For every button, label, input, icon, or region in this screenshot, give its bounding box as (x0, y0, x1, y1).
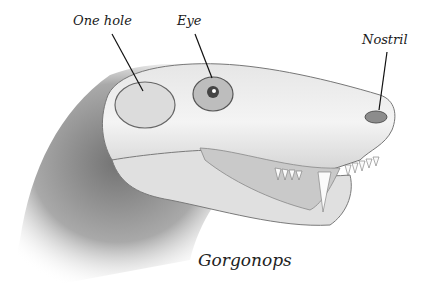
label-eye: Eye (177, 13, 202, 28)
label-one-hole: One hole (73, 13, 132, 28)
gorgonops-skull-diagram: One hole Eye Nostril Gorgonops (0, 0, 427, 284)
label-nostril: Nostril (362, 32, 408, 47)
nostril (365, 111, 387, 123)
temporal-fenestra (115, 82, 175, 128)
figure-caption: Gorgonops (198, 250, 292, 270)
eye-highlight (212, 89, 216, 93)
